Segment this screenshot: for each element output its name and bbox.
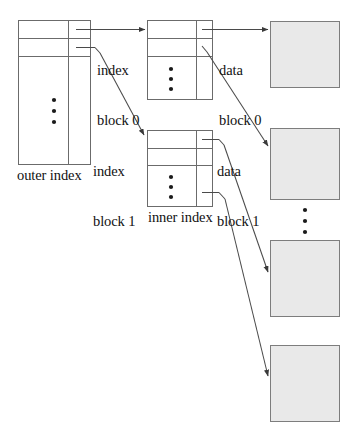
data-block-1-label-line2: block 1: [217, 213, 259, 230]
data-block-0-label-line1: data: [219, 62, 261, 79]
data-block-1-label-line1: data: [217, 163, 259, 180]
data-block-0-label-line2: block 0: [219, 112, 261, 129]
index-block-1-label-line1: index: [93, 163, 135, 180]
index-block-1-box: [148, 131, 213, 207]
outer-index-label: outer index: [17, 167, 82, 183]
two-level-index-diagram: index block 0 data block 0 index block 1…: [0, 0, 353, 441]
data-block-3: [271, 346, 340, 422]
index-block-0-label-line1: index: [97, 62, 139, 79]
data-block-2: [271, 241, 340, 317]
data-block-1-label: data block 1: [217, 130, 259, 262]
data-block-1: [271, 129, 340, 200]
data-block-0: [271, 22, 340, 88]
index-block-0-box: [148, 21, 213, 100]
inner-index-label: inner index: [148, 209, 213, 225]
index-block-1-label-line2: block 1: [93, 213, 135, 230]
data-blocks-ellipsis-icon: [303, 208, 307, 234]
outer-index-box: [19, 21, 91, 165]
index-block-1-label: index block 1: [93, 130, 135, 262]
index-block-0-label-line2: block 0: [97, 112, 139, 129]
